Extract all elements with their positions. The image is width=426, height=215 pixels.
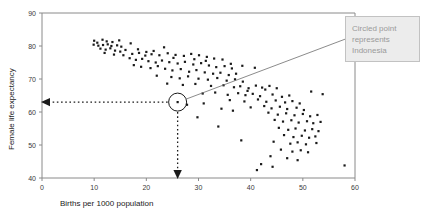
data-point (243, 100, 245, 102)
data-point (226, 80, 228, 82)
data-point (133, 64, 135, 66)
data-point (208, 64, 210, 66)
data-point (252, 93, 254, 95)
data-point (284, 101, 286, 103)
data-point (293, 114, 295, 116)
data-point (118, 39, 120, 41)
data-point (194, 83, 196, 85)
data-point (167, 52, 169, 54)
data-point (322, 93, 324, 95)
y-tick-label: 40 (28, 175, 36, 182)
data-point (294, 127, 296, 129)
data-point (235, 73, 237, 75)
data-point (198, 54, 200, 56)
data-point (286, 108, 288, 110)
data-point (286, 157, 288, 159)
data-point (216, 77, 218, 79)
data-point (149, 67, 151, 69)
data-point (110, 45, 112, 47)
data-point (283, 134, 285, 136)
data-point (270, 107, 272, 109)
data-point (271, 166, 273, 168)
scatter-plot-figure: 405060708090 0102030405060 Female life e… (0, 0, 426, 215)
data-point (257, 98, 259, 100)
data-point (263, 105, 265, 107)
data-point (130, 42, 132, 44)
data-point (180, 68, 182, 70)
data-point (183, 55, 185, 57)
data-points-layer (93, 39, 346, 172)
data-point (204, 71, 206, 73)
y-tick-label: 60 (28, 109, 36, 116)
data-point (119, 51, 121, 53)
data-point (161, 59, 163, 61)
data-point (308, 137, 310, 139)
data-point (188, 71, 190, 73)
data-point (214, 91, 216, 93)
data-point (106, 40, 108, 42)
data-point (164, 68, 166, 70)
data-point (254, 67, 256, 69)
data-point (101, 39, 103, 41)
data-point (187, 75, 189, 77)
x-axis-ticks: 0102030405060 (40, 178, 359, 191)
data-point (122, 54, 124, 56)
data-point (212, 73, 214, 75)
data-point (291, 151, 293, 153)
data-point (242, 81, 244, 83)
data-point (303, 109, 305, 111)
data-point (264, 88, 266, 90)
data-point (285, 112, 287, 114)
data-point (153, 50, 155, 52)
x-tick-label: 20 (142, 184, 150, 191)
data-point (219, 72, 221, 74)
data-point (246, 90, 248, 92)
data-point (111, 41, 113, 43)
data-point (207, 79, 209, 81)
data-point (220, 108, 222, 110)
data-point (221, 58, 223, 60)
data-point (107, 43, 109, 45)
data-point (276, 87, 278, 89)
data-point (129, 57, 131, 59)
data-point (182, 84, 184, 86)
x-tick-label: 0 (40, 184, 44, 191)
data-point (268, 85, 270, 87)
data-point (179, 77, 181, 79)
data-point (217, 125, 219, 127)
data-point (291, 100, 293, 102)
data-point (275, 99, 277, 101)
data-point (171, 69, 173, 71)
data-point (314, 135, 316, 137)
data-point (301, 135, 303, 137)
data-point (116, 44, 118, 46)
x-tick-label: 40 (247, 184, 255, 191)
data-point (319, 121, 321, 123)
data-point (306, 120, 308, 122)
y-tick-label: 70 (28, 76, 36, 83)
data-point (114, 50, 116, 52)
data-point (177, 62, 179, 64)
data-point (150, 53, 152, 55)
data-point (273, 141, 275, 143)
data-point (93, 40, 95, 42)
data-point (261, 86, 263, 88)
data-point (260, 163, 262, 165)
data-point (282, 120, 284, 122)
data-point (300, 149, 302, 151)
data-point (274, 119, 276, 121)
data-point (124, 49, 126, 51)
data-point (288, 94, 290, 96)
data-point (195, 69, 197, 71)
y-axis-ticks: 405060708090 (28, 10, 42, 182)
data-point (145, 51, 147, 53)
data-point (280, 149, 282, 151)
data-point (309, 115, 311, 117)
data-point (172, 57, 174, 59)
data-point (343, 164, 345, 166)
data-point (316, 114, 318, 116)
data-point (155, 61, 157, 63)
data-point (131, 53, 133, 55)
data-point (144, 54, 146, 56)
data-point (141, 58, 143, 60)
